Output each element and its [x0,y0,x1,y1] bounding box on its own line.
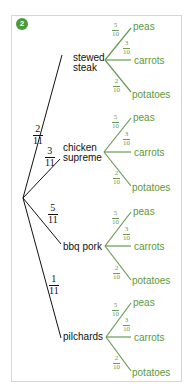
prob-bbq-pork-potatoes: 210 [113,265,120,281]
leaf-stewed-steak-carrots: carrots [134,56,165,66]
prob-chicken-supreme-potatoes: 210 [113,170,120,186]
prob-bbq-pork-carrots: 310 [123,226,130,242]
leaf-chicken-supreme-potatoes: potatoes [132,183,170,193]
prob-stewed-steak-carrots: 310 [123,40,130,56]
prob-pilchards-potatoes: 210 [113,355,120,371]
prob-chicken-supreme-peas: 510 [112,114,119,130]
leaf-bbq-pork-peas: peas [133,207,155,217]
prob-bbq-pork: 511 [48,203,58,225]
prob-stewed-steak: 211 [33,124,43,146]
prob-pilchards: 111 [49,274,59,296]
leaf-bbq-pork-carrots: carrots [134,242,165,252]
leaf-stewed-steak-peas: peas [133,22,155,32]
leaf-stewed-steak-potatoes: potatoes [132,90,170,100]
leaf-pilchards-potatoes: potatoes [132,368,170,378]
leaf-bbq-pork-potatoes: potatoes [132,276,170,286]
node-label-bbq-pork: bbq pork [63,242,102,252]
node-label-pilchards: pilchards [63,332,103,342]
node-label-chicken-supreme: chicken supreme [63,143,102,163]
prob-stewed-steak-peas: 510 [112,22,119,38]
prob-pilchards-peas: 510 [112,302,119,318]
prob-chicken-supreme-carrots: 310 [123,131,130,147]
leaf-chicken-supreme-peas: peas [133,113,155,123]
prob-stewed-steak-potatoes: 210 [113,78,120,94]
node-label-stewed-steak: stewed steak [73,53,105,73]
leaf-pilchards-peas: peas [133,298,155,308]
leaf-pilchards-carrots: carrots [134,333,165,343]
prob-bbq-pork-peas: 510 [112,210,119,226]
leaf-chicken-supreme-carrots: carrots [134,148,165,158]
prob-pilchards-carrots: 310 [123,317,130,333]
prob-chicken-supreme: 311 [45,146,55,168]
